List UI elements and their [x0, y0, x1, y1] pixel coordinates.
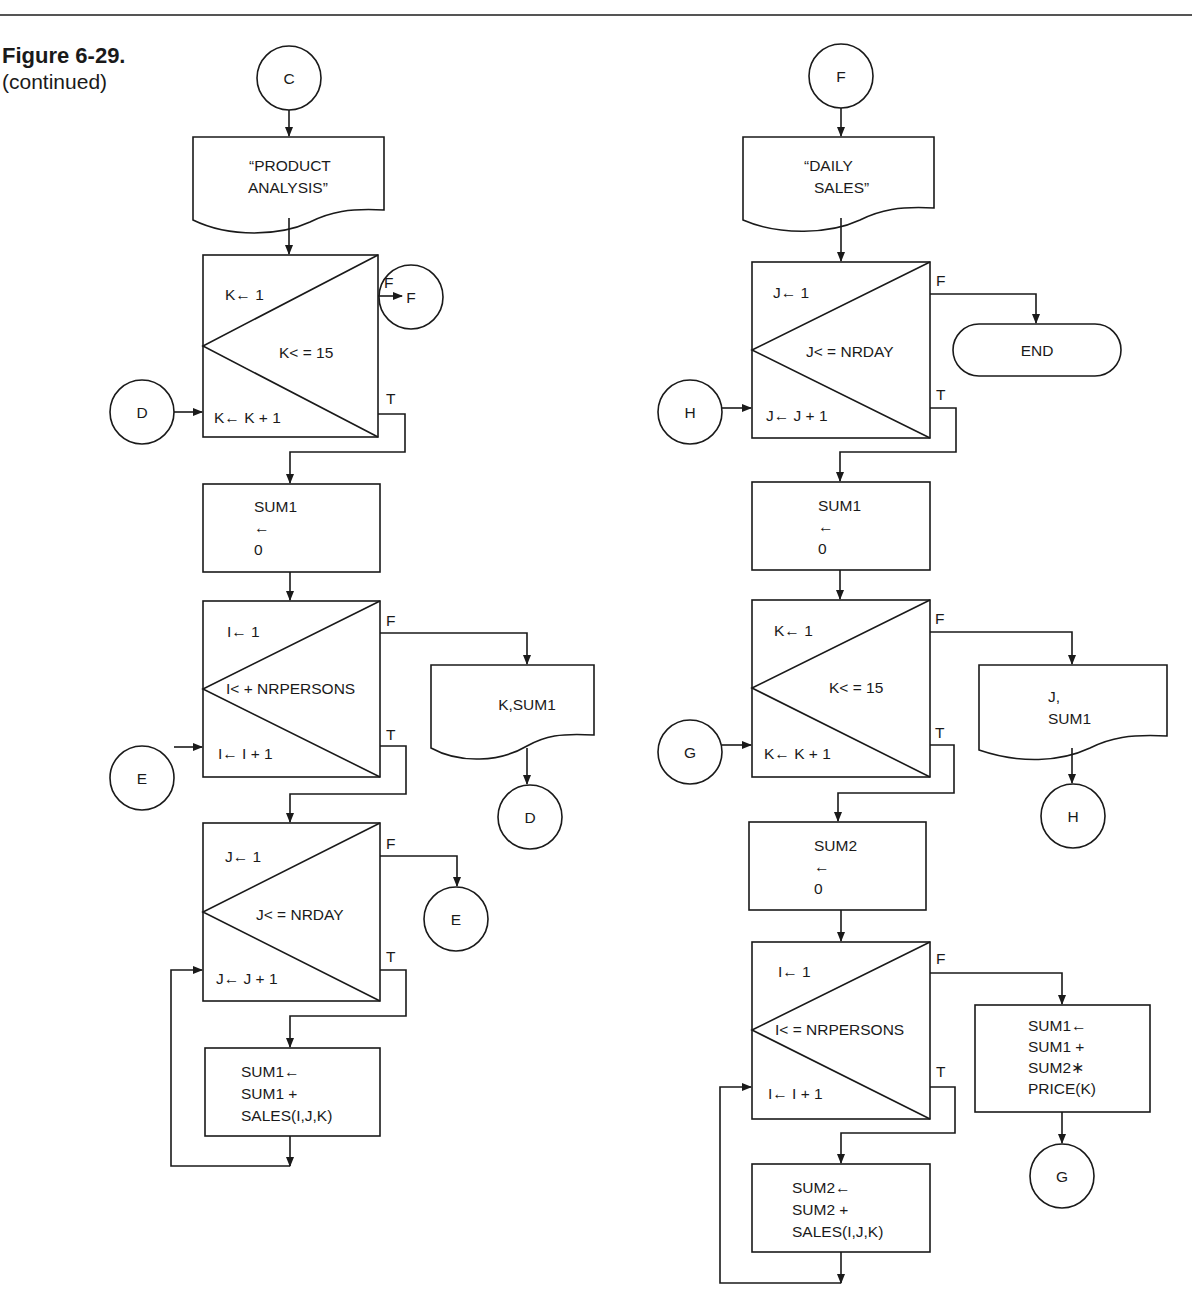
accumulate-line1: SUM1←: [241, 1063, 300, 1080]
loop-k-false-label: F: [384, 274, 393, 291]
init-sum2-line1: SUM2: [814, 837, 857, 854]
accumulate-line3: SALES(I,J,K): [241, 1107, 332, 1124]
loop-i-incr: I← I + 1: [218, 745, 273, 762]
init-sum2-box: [749, 822, 926, 910]
loop-k-init: K← 1: [225, 286, 264, 303]
connector-e-label: E: [137, 770, 147, 787]
loop-j-right-test: J< = NRDAY: [806, 343, 894, 360]
connector-g-out-label: G: [1056, 1168, 1068, 1185]
output-doc-right-line1: J,: [1048, 688, 1060, 705]
doc-right-line-2: SALES”: [814, 179, 869, 196]
init-sum1-right-line3: 0: [818, 540, 827, 557]
doc-line-1: “PRODUCT: [249, 157, 331, 174]
connector-e-out-label: E: [451, 911, 461, 928]
flowchart: C “PRODUCT ANALYSIS” K← 1 K< = 15 K← K +…: [0, 0, 1192, 1313]
loop-k-incr: K← K + 1: [214, 409, 281, 426]
loop-j-right-init: J← 1: [773, 284, 809, 301]
price-line3: SUM2∗: [1028, 1059, 1084, 1076]
init-sum1-line1: SUM1: [254, 498, 297, 515]
loop-k-right-false-label: F: [935, 610, 944, 627]
accumulate-sum2-line3: SALES(I,J,K): [792, 1223, 883, 1240]
loop-i-init: I← 1: [227, 623, 260, 640]
loop-j-init: J← 1: [225, 848, 261, 865]
loop-j-right-incr: J← J + 1: [766, 407, 828, 424]
price-line4: PRICE(K): [1028, 1080, 1096, 1097]
loop-j-true-label: T: [386, 948, 396, 965]
connector-d-label: D: [136, 404, 147, 421]
output-doc-right-line2: SUM1: [1048, 710, 1091, 727]
loop-i-right-false-label: F: [936, 950, 945, 967]
end-label: END: [1021, 342, 1054, 359]
loop-i-right-true-label: T: [936, 1063, 946, 1080]
accumulate-line2: SUM1 +: [241, 1085, 297, 1102]
loop-k-right-init: K← 1: [774, 622, 813, 639]
init-sum1-right-line1: SUM1: [818, 497, 861, 514]
connector-h-out-label: H: [1067, 808, 1078, 825]
price-line2: SUM1 +: [1028, 1038, 1084, 1055]
loop-i-false-label: F: [386, 612, 395, 629]
loop-i-right-incr: I← I + 1: [768, 1085, 823, 1102]
init-sum1-box-right: [752, 482, 930, 570]
left-flow: [110, 46, 594, 1166]
loop-i-test: I< + NRPERSONS: [226, 680, 355, 697]
loop-j-test: J< = NRDAY: [256, 906, 344, 923]
loop-k-test: K< = 15: [279, 344, 333, 361]
init-sum1-line2: ←: [254, 519, 270, 536]
connector-d-out-label: D: [524, 809, 535, 826]
connector-c-label: C: [283, 70, 294, 87]
init-sum2-line2: ←: [814, 858, 830, 875]
loop-j-incr: J← J + 1: [216, 970, 278, 987]
init-sum2-line3: 0: [814, 880, 823, 897]
loop-k-true-label: T: [386, 390, 396, 407]
loop-k-right-incr: K← K + 1: [764, 745, 831, 762]
loop-j-false-label: F: [386, 835, 395, 852]
connector-f-entry-label: F: [836, 68, 845, 85]
loop-i-true-label: T: [386, 726, 396, 743]
init-sum1-line3: 0: [254, 541, 263, 558]
doc-right-line-1: “DAILY: [804, 157, 853, 174]
loop-i-right-test: I< = NRPERSONS: [775, 1021, 904, 1038]
accumulate-sum2-line1: SUM2←: [792, 1179, 851, 1196]
price-line1: SUM1←: [1028, 1017, 1087, 1034]
init-sum1-right-line2: ←: [818, 518, 834, 535]
right-flow: [658, 44, 1167, 1283]
loop-j-right-false-label: F: [936, 272, 945, 289]
doc-line-2: ANALYSIS”: [248, 179, 328, 196]
connector-g-label: G: [684, 744, 696, 761]
loop-j-right-true-label: T: [936, 386, 946, 403]
output-doc-label: K,SUM1: [498, 696, 556, 713]
connector-f-label: F: [406, 289, 415, 306]
loop-i-right-init: I← 1: [778, 963, 811, 980]
loop-k-right-true-label: T: [935, 724, 945, 741]
loop-k-right-test: K< = 15: [829, 679, 883, 696]
connector-h-label: H: [684, 404, 695, 421]
accumulate-sum2-line2: SUM2 +: [792, 1201, 848, 1218]
